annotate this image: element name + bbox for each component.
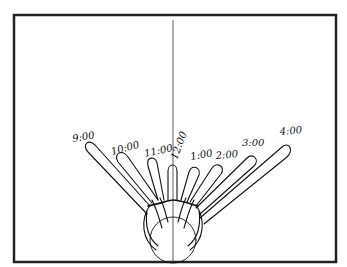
sun-tracking-sketch: 9:0010:0011:0012:001:002:003:004:00: [0, 0, 347, 267]
time-label: 1:00: [189, 147, 214, 162]
leaf-1-00: [181, 167, 199, 202]
leaf-4-00: [200, 145, 290, 224]
time-labels: 9:0010:0011:0012:001:002:003:004:00: [71, 124, 303, 162]
leaf-12-00: [168, 165, 177, 200]
time-label: 9:00: [71, 129, 96, 144]
leaf-3-00: [196, 156, 256, 214]
leaf-11-00: [148, 158, 164, 200]
time-label: 4:00: [278, 124, 303, 137]
time-label: 3:00: [242, 137, 265, 148]
time-label: 2:00: [214, 148, 239, 161]
